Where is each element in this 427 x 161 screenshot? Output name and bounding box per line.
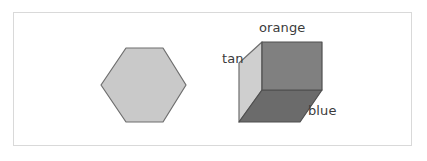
- hexagon-shape: [101, 48, 186, 122]
- shapes-illustration: [0, 0, 427, 161]
- figure-canvas: orange tan blue: [0, 0, 427, 161]
- box-face-blue-label: blue: [308, 104, 337, 117]
- box-face-orange-label: orange: [259, 21, 305, 34]
- box-face-tan-label: tan: [222, 52, 244, 65]
- box-face-orange: [262, 42, 322, 90]
